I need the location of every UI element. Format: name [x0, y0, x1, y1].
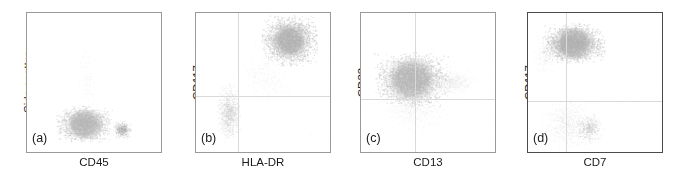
- panel-label-b: (b): [201, 131, 216, 145]
- x-axis-label-d: CD7: [527, 156, 663, 168]
- x-axis-label-a: CD45: [26, 156, 162, 168]
- panel-label-a: (a): [32, 131, 47, 145]
- quadrant-line-horizontal-b: [196, 96, 330, 97]
- quadrant-line-horizontal-d: [528, 101, 662, 102]
- panel-label-c: (c): [366, 131, 381, 145]
- scatter-panel-b: CD117 (b) HLA-DR: [169, 0, 339, 177]
- scatter-panel-c: CD33 (c) CD13: [334, 0, 504, 177]
- scatter-canvas-c: [361, 13, 495, 152]
- flow-cytometry-figure: Side scatter (a) CD45 CD117 (b) HLA-DR C…: [0, 0, 678, 177]
- quadrant-line-vertical-b: [238, 13, 239, 152]
- panel-label-d: (d): [533, 131, 548, 145]
- x-axis-label-b: HLA-DR: [195, 156, 331, 168]
- scatter-panel-a: Side scatter (a) CD45: [0, 0, 170, 177]
- quadrant-line-vertical-c: [415, 13, 416, 152]
- scatter-panel-d: CD117 (d) CD7: [501, 0, 671, 177]
- quadrant-line-horizontal-c: [361, 99, 495, 100]
- x-axis-label-c: CD13: [360, 156, 496, 168]
- quadrant-line-vertical-d: [566, 13, 567, 152]
